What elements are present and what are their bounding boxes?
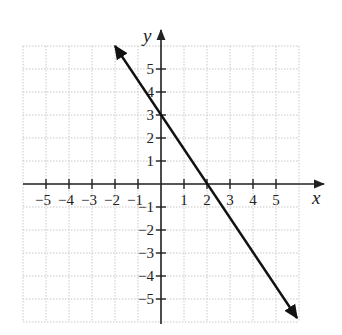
y-tick-label: −1: [138, 199, 154, 215]
x-tick-label: 3: [226, 192, 234, 208]
y-tick-label: 1: [147, 153, 155, 169]
y-tick-label: −3: [138, 245, 154, 261]
x-tick-label: −5: [35, 192, 51, 208]
x-axis-label: x: [311, 187, 321, 208]
y-tick-label: −4: [138, 268, 154, 284]
y-tick-label: 2: [147, 130, 155, 146]
x-tick-label: 2: [203, 192, 211, 208]
x-tick-label: 4: [249, 192, 257, 208]
x-tick-label: −4: [58, 192, 74, 208]
x-tick-label: −2: [104, 192, 120, 208]
coordinate-plane: −5−4−3−2−112345−5−4−3−2−112345 x y: [0, 0, 342, 335]
axes: [23, 30, 324, 324]
y-tick-label: −2: [138, 222, 154, 238]
y-axis-label: y: [141, 25, 152, 46]
y-tick-label: 3: [147, 107, 155, 123]
y-tick-label: −5: [138, 291, 154, 307]
y-tick-label: 5: [147, 61, 155, 77]
x-tick-label: 5: [272, 192, 280, 208]
x-tick-label: 1: [180, 192, 188, 208]
x-tick-label: −3: [81, 192, 97, 208]
